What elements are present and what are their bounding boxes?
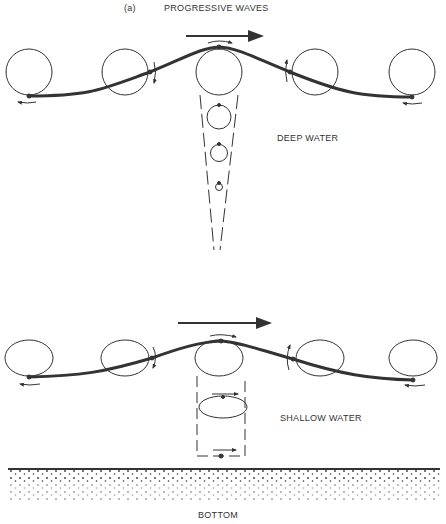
deep-water-label: DEEP WATER (277, 133, 338, 143)
panel-label: (a) (124, 3, 136, 13)
wave-diagram (0, 0, 446, 524)
deep-water-section (6, 36, 435, 250)
bottom-label: BOTTOM (198, 510, 238, 520)
sea-bottom (8, 469, 440, 500)
figure-title: PROGRESSIVE WAVES (164, 3, 269, 13)
shallow-water-label: SHALLOW WATER (280, 413, 362, 423)
shallow-water-section (5, 323, 437, 458)
